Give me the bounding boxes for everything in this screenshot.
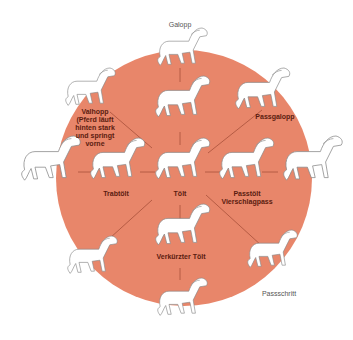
label-toelt: Tölt	[168, 190, 192, 198]
gait-diagram: Galopp Passgalopp Valhopp (Pferd läuft h…	[0, 0, 353, 340]
label-valhopp: Valhopp (Pferd läuft hinten stark und sp…	[68, 108, 122, 148]
label-verkuerzter-toelt: Verkürzter Tölt	[150, 253, 212, 261]
label-passtoelt: Passtölt Viersch­lagpass	[218, 190, 276, 206]
label-galopp: Galopp	[160, 21, 200, 29]
label-passgalopp: Passgalopp	[252, 113, 298, 121]
label-passschritt: Passschritt	[256, 290, 302, 298]
diagram-canvas	[0, 0, 353, 340]
label-trabtoelt: Trabtölt	[98, 190, 134, 198]
